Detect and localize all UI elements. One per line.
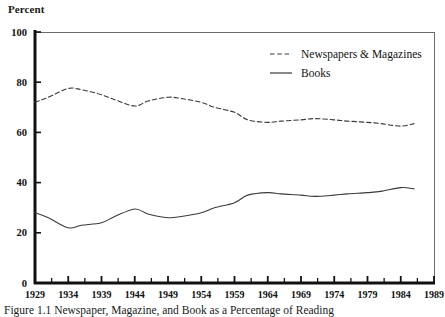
y-tick-label: 100 (11, 27, 27, 38)
x-tick-label: 1984 (391, 289, 411, 300)
y-tick-label: 0 (22, 278, 27, 289)
x-tick-label: 1939 (92, 289, 112, 300)
y-tick-label: 80 (17, 77, 28, 88)
x-tick-label: 1964 (258, 289, 278, 300)
x-tick-label: 1969 (291, 289, 311, 300)
y-tick-label: 40 (17, 177, 28, 188)
x-tick-label: 1989 (424, 289, 444, 300)
x-tick-label: 1954 (191, 289, 211, 300)
x-tick-label: 1974 (324, 289, 344, 300)
x-tick-label: 1959 (225, 289, 245, 300)
x-tick-label: 1929 (25, 289, 45, 300)
y-tick-label: 60 (17, 127, 28, 138)
figure-caption: Figure 1.1 Newspaper, Magazine, and Book… (4, 303, 441, 317)
line-chart: 020406080100 192919341939194419491954195… (0, 0, 445, 300)
legend-label-1: Newspapers & Magazines (301, 48, 422, 61)
x-tick-label: 1979 (358, 289, 378, 300)
y-tick-label: 20 (17, 227, 28, 238)
x-tick-label: 1934 (58, 289, 78, 300)
x-tick-label: 1944 (125, 289, 145, 300)
plot-frame (35, 33, 435, 284)
legend-label-2: Books (301, 67, 331, 79)
x-tick-label: 1949 (158, 289, 178, 300)
